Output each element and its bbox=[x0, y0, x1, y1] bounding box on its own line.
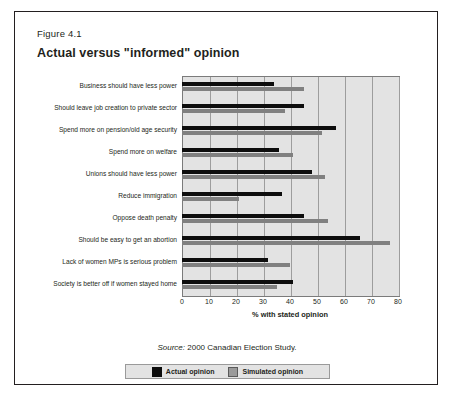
category-label: Lack of women MPs is serious problem bbox=[62, 258, 177, 265]
x-tick-label: 60 bbox=[340, 298, 348, 305]
bar-row: Should be easy to get an abortion bbox=[182, 229, 398, 251]
figure-title: Actual versus "informed" opinion bbox=[37, 46, 240, 60]
legend-swatch-simulated-icon bbox=[228, 367, 238, 377]
bar-simulated bbox=[182, 175, 325, 179]
legend-item-actual: Actual opinion bbox=[152, 367, 215, 377]
bar-actual bbox=[182, 126, 336, 130]
figure-card: Figure 4.1 Actual versus "informed" opin… bbox=[14, 11, 438, 385]
bar-row: Should leave job creation to private sec… bbox=[182, 98, 398, 120]
category-label: Reduce immigration bbox=[118, 192, 177, 199]
legend-label-actual: Actual opinion bbox=[166, 368, 215, 375]
source-word: Source: bbox=[157, 343, 185, 352]
x-tick-label: 50 bbox=[313, 298, 321, 305]
category-label: Should be easy to get an abortion bbox=[78, 236, 177, 243]
gridline-80 bbox=[399, 77, 400, 296]
bar-row: Business should have less power bbox=[182, 76, 398, 98]
bar-simulated bbox=[182, 219, 328, 223]
category-label: Oppose death penalty bbox=[112, 214, 177, 221]
x-tick-label: 30 bbox=[259, 298, 267, 305]
bar-actual bbox=[182, 236, 360, 240]
bar-simulated bbox=[182, 87, 304, 91]
bar-row: Society is better off if women stayed ho… bbox=[182, 273, 398, 295]
category-label: Should leave job creation to private sec… bbox=[54, 104, 177, 111]
x-tick-label: 70 bbox=[367, 298, 375, 305]
category-label: Spend more on welfare bbox=[109, 148, 177, 155]
x-axis-title: % with stated opinion bbox=[182, 310, 398, 319]
legend-swatch-actual-icon bbox=[152, 367, 162, 377]
figure-number: Figure 4.1 bbox=[37, 28, 82, 39]
category-label: Business should have less power bbox=[80, 82, 178, 89]
bar-row: Reduce immigration bbox=[182, 186, 398, 208]
bar-row: Oppose death penalty bbox=[182, 207, 398, 229]
category-label: Society is better off if women stayed ho… bbox=[53, 280, 177, 287]
bar-actual bbox=[182, 214, 304, 218]
x-tick-label: 80 bbox=[394, 298, 402, 305]
bar-row: Spend more on pension/old age security bbox=[182, 120, 398, 142]
bar-row: Spend more on welfare bbox=[182, 142, 398, 164]
source-text: 2000 Canadian Election Study. bbox=[185, 343, 296, 352]
bar-actual bbox=[182, 148, 279, 152]
bar-simulated bbox=[182, 197, 239, 201]
bar-actual bbox=[182, 82, 274, 86]
bar-actual bbox=[182, 170, 312, 174]
bar-simulated bbox=[182, 131, 322, 135]
x-tick-label: 40 bbox=[286, 298, 294, 305]
bar-simulated bbox=[182, 263, 290, 267]
x-tick-label: 10 bbox=[205, 298, 213, 305]
bar-row: Lack of women MPs is serious problem bbox=[182, 251, 398, 273]
bar-simulated bbox=[182, 285, 277, 289]
bar-actual bbox=[182, 192, 282, 196]
bar-actual bbox=[182, 258, 268, 262]
bar-row: Unions should have less power bbox=[182, 164, 398, 186]
bar-simulated bbox=[182, 109, 285, 113]
bar-actual bbox=[182, 280, 293, 284]
legend-item-simulated: Simulated opinion bbox=[228, 367, 303, 377]
bar-actual bbox=[182, 104, 304, 108]
source-note: Source: 2000 Canadian Election Study. bbox=[15, 343, 439, 352]
category-label: Spend more on pension/old age security bbox=[59, 126, 177, 133]
chart-legend: Actual opinion Simulated opinion bbox=[125, 364, 330, 379]
x-tick-label: 20 bbox=[232, 298, 240, 305]
bar-simulated bbox=[182, 153, 293, 157]
legend-label-simulated: Simulated opinion bbox=[242, 368, 303, 375]
bar-rows: Business should have less powerShould le… bbox=[182, 76, 398, 295]
x-tick-label: 0 bbox=[180, 298, 184, 305]
category-label: Unions should have less power bbox=[86, 170, 177, 177]
bar-chart: Business should have less powerShould le… bbox=[15, 70, 439, 315]
bar-simulated bbox=[182, 241, 390, 245]
